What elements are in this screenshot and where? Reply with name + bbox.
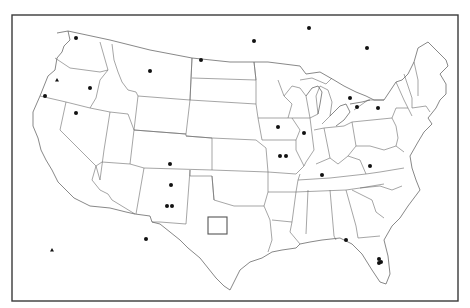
location-dot-marker: [165, 204, 169, 208]
location-dot-marker: [348, 96, 352, 100]
location-dot-marker: [344, 238, 348, 242]
location-dot-marker: [252, 39, 256, 43]
location-dot-marker: [148, 69, 152, 73]
study-area-box: [208, 217, 227, 234]
location-dot-marker: [74, 36, 78, 40]
location-dot-marker: [74, 111, 78, 115]
location-dot-marker: [169, 183, 173, 187]
location-dot-marker: [168, 162, 172, 166]
location-dot-marker: [355, 105, 359, 109]
us-map: [0, 0, 470, 308]
location-dot-marker: [377, 261, 381, 265]
map-figure: [0, 0, 470, 308]
map-border: [12, 15, 458, 301]
marker-layer: [43, 26, 383, 265]
location-dot-marker: [365, 46, 369, 50]
location-dot-marker: [278, 154, 282, 158]
location-dot-marker: [43, 94, 47, 98]
location-dot-marker: [199, 58, 203, 62]
location-dot-marker: [276, 125, 280, 129]
location-dot-marker: [170, 204, 174, 208]
location-dot-marker: [368, 164, 372, 168]
triangle-marker-icon: [55, 78, 59, 82]
location-dot-marker: [376, 106, 380, 110]
triangle-marker-icon: [50, 248, 54, 252]
location-dot-marker: [302, 131, 306, 135]
state-outlines: [33, 31, 448, 290]
location-dot-marker: [88, 86, 92, 90]
location-dot-marker: [307, 26, 311, 30]
location-dot-marker: [284, 154, 288, 158]
location-dot-marker: [144, 237, 148, 241]
location-dot-marker: [320, 173, 324, 177]
